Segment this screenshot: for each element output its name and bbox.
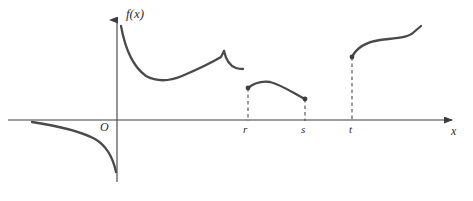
- endpoint-dot-t: [350, 55, 355, 60]
- curve-branch-main: [121, 26, 224, 80]
- x-axis-label: x: [451, 124, 456, 139]
- endpoint-dot-r: [246, 86, 251, 91]
- tick-label-r: r: [243, 123, 247, 135]
- curve-branch-right-of-t: [352, 26, 421, 57]
- endpoint-dot-s: [303, 97, 308, 102]
- curve-branch-main-tail: [224, 51, 243, 69]
- curve-branch-r-to-s: [248, 82, 305, 99]
- tick-label-t: t: [349, 123, 352, 135]
- tick-label-s: s: [301, 123, 305, 135]
- y-axis-label: f(x): [126, 6, 144, 22]
- origin-label: O: [100, 120, 109, 135]
- function-graph-figure: f(x) O x r s t: [0, 0, 473, 201]
- graph-canvas: [0, 0, 473, 201]
